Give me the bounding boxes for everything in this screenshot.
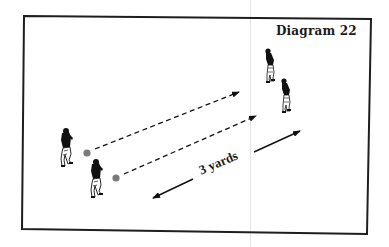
player-icon-passer-2 <box>91 159 103 198</box>
pass-arrow-1 <box>95 92 239 149</box>
ball-icon <box>83 149 90 156</box>
pass-arrow-2 <box>124 116 256 174</box>
ball-icon <box>112 174 119 181</box>
player-icon-receiver-2 <box>281 78 291 113</box>
field-border <box>22 16 371 234</box>
diagram-title: Diagram 22 <box>276 24 357 38</box>
distance-arrow-left <box>153 179 193 198</box>
distance-arrow-right <box>254 131 300 152</box>
player-icon-receiver-1 <box>265 48 275 83</box>
player-icon-passer-1 <box>61 128 73 167</box>
